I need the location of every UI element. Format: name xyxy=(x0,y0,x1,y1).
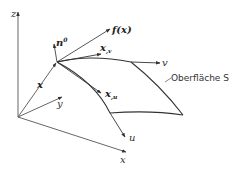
surface-label: Oberfläche S xyxy=(171,73,229,83)
tangent-u-vector xyxy=(57,62,101,93)
tangent-v-label: x,v xyxy=(99,42,112,54)
position-vector xyxy=(18,63,56,117)
u-curve-label: u xyxy=(129,132,135,143)
position-vector-label: x xyxy=(36,79,44,90)
surface-diagram: z y x x n0 f(x) x,v x,u v u Oberfläche S xyxy=(0,0,232,173)
u-arrow xyxy=(110,113,125,137)
x-axis xyxy=(18,117,126,152)
v-curve-label: v xyxy=(162,57,168,68)
normal-vector-label: n0 xyxy=(56,36,68,48)
tangent-u-label: x,u xyxy=(104,88,118,100)
z-axis-label: z xyxy=(10,8,17,19)
surface-bottom-edge xyxy=(110,112,183,115)
field-vector-label: f(x) xyxy=(111,24,132,35)
v-arrow xyxy=(131,62,160,63)
y-axis-label: y xyxy=(56,98,63,109)
u-curve xyxy=(57,62,110,113)
surface-right-edge xyxy=(131,62,183,115)
coordinate-axes xyxy=(18,12,126,152)
x-axis-label: x xyxy=(120,154,126,165)
